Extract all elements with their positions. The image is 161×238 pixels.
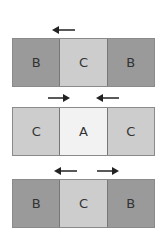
cell-b: B: [13, 39, 59, 86]
cell-b: B: [13, 180, 59, 227]
cell-c: C: [59, 180, 106, 227]
cell-b: B: [107, 39, 154, 86]
cell-a: A: [59, 108, 106, 155]
arrow-left-icon: [54, 166, 78, 176]
cell-c: C: [107, 108, 154, 155]
row-3: B C B: [12, 179, 155, 228]
arrow-left-icon: [52, 25, 76, 35]
arrow-right-icon: [96, 166, 120, 176]
row-2: C A C: [12, 107, 155, 156]
cell-c: C: [59, 39, 106, 86]
row-1: B C B: [12, 38, 155, 87]
arrow-left-icon: [96, 93, 120, 103]
cell-b: B: [107, 180, 154, 227]
arrow-right-icon: [47, 93, 71, 103]
cell-c: C: [13, 108, 59, 155]
